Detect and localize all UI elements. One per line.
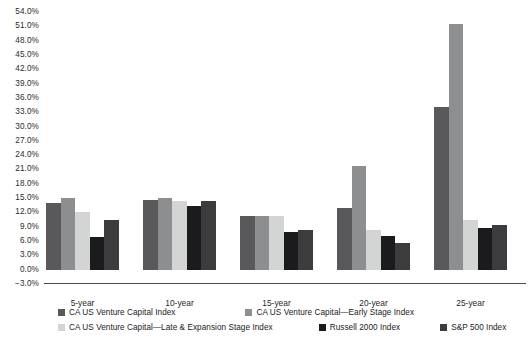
bar[interactable] (104, 220, 119, 270)
legend-item[interactable]: CA US Venture Capital—Early Stage Index (245, 308, 414, 318)
legend-swatch-icon (440, 324, 447, 331)
y-axis-tick-label: 21.0% (15, 165, 39, 173)
bar[interactable] (284, 232, 299, 269)
legend-label: CA US Venture Capital Index (69, 308, 175, 318)
y-axis-tick-label: 30.0% (15, 122, 39, 130)
bar[interactable] (255, 216, 270, 269)
bar[interactable] (158, 198, 173, 270)
bar[interactable] (434, 107, 449, 269)
y-axis-tick-label: 18.0% (15, 180, 39, 188)
y-axis-tick-label: 33.0% (15, 108, 39, 116)
legend-swatch-icon (58, 309, 65, 316)
bars-row (240, 12, 313, 284)
bar[interactable] (75, 212, 90, 270)
bar-group (240, 12, 313, 284)
bar[interactable] (395, 243, 410, 270)
y-axis-tick-label: 39.0% (15, 79, 39, 87)
y-axis-tick-label: 36.0% (15, 94, 39, 102)
legend-row: CA US Venture Capital IndexCA US Venture… (58, 305, 528, 320)
bar-chart: 54.0%51.0%48.0%45.0%42.0%39.0%36.0%33.0%… (0, 0, 532, 346)
y-axis-tick-label: 9.0% (20, 223, 39, 231)
legend-label: CA US Venture Capital—Late & Expansion S… (69, 323, 273, 333)
plot-area: 5-year10-year15-year20-year25-year (44, 12, 524, 284)
bar[interactable] (269, 216, 284, 269)
bar[interactable] (240, 216, 255, 269)
y-axis-tick-label: 12.0% (15, 208, 39, 216)
bar[interactable] (366, 230, 381, 270)
bars-row (434, 12, 507, 284)
legend-label: S&P 500 Index (451, 323, 506, 333)
y-axis-tick-label: 3.0% (20, 251, 39, 259)
legend-row: CA US Venture Capital—Late & Expansion S… (58, 320, 528, 335)
y-axis-tick-label: 6.0% (20, 237, 39, 245)
bars-row (337, 12, 410, 284)
bar[interactable] (337, 208, 352, 270)
bar-group (46, 12, 119, 284)
legend-item[interactable]: CA US Venture Capital—Late & Expansion S… (58, 323, 273, 333)
bars-row (46, 12, 119, 284)
y-axis-tick-label: 27.0% (15, 137, 39, 145)
legend-swatch-icon (58, 324, 65, 331)
chart-legend: CA US Venture Capital IndexCA US Venture… (58, 305, 528, 335)
bar[interactable] (381, 236, 396, 269)
bar[interactable] (61, 198, 76, 270)
bar[interactable] (143, 200, 158, 270)
legend-label: Russell 2000 Index (330, 323, 401, 333)
y-axis-tick-label: 48.0% (15, 37, 39, 45)
bar[interactable] (90, 237, 105, 269)
legend-item[interactable]: Russell 2000 Index (319, 323, 401, 333)
bar[interactable] (463, 220, 478, 270)
legend-item[interactable]: CA US Venture Capital Index (58, 308, 175, 318)
bar[interactable] (298, 230, 313, 270)
bar-group (143, 12, 216, 284)
bar-group (337, 12, 410, 284)
y-axis-tick-label: −3.0% (15, 280, 39, 288)
y-axis-tick-label: 54.0% (15, 8, 39, 16)
bar[interactable] (478, 228, 493, 270)
legend-item[interactable]: S&P 500 Index (440, 323, 506, 333)
bar[interactable] (46, 203, 61, 270)
bar[interactable] (352, 166, 367, 270)
y-axis-tick-label: 45.0% (15, 51, 39, 59)
bar[interactable] (172, 201, 187, 270)
y-axis-tick-label: 0.0% (20, 266, 39, 274)
legend-label: CA US Venture Capital—Early Stage Index (256, 308, 414, 318)
y-axis-tick-label: 15.0% (15, 194, 39, 202)
bar[interactable] (187, 206, 202, 270)
y-axis-tick-label: 51.0% (15, 22, 39, 30)
bar[interactable] (449, 24, 464, 270)
bar-group (434, 12, 507, 284)
y-axis: 54.0%51.0%48.0%45.0%42.0%39.0%36.0%33.0%… (0, 12, 42, 284)
y-axis-tick-label: 24.0% (15, 151, 39, 159)
legend-swatch-icon (319, 324, 326, 331)
bar[interactable] (201, 201, 216, 270)
bar[interactable] (492, 225, 507, 270)
bars-row (143, 12, 216, 284)
legend-swatch-icon (245, 309, 252, 316)
x-axis-line (44, 283, 526, 284)
y-axis-tick-label: 42.0% (15, 65, 39, 73)
